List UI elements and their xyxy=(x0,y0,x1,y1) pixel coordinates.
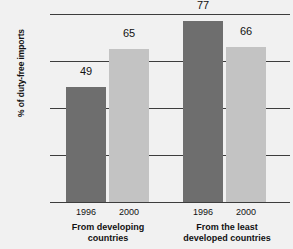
bar-developing-1996[interactable] xyxy=(66,87,106,202)
x-tick-label-developing-1996: 1996 xyxy=(66,208,106,217)
bar-least-developed-2000[interactable] xyxy=(226,47,266,202)
bar-value-developing-1996: 49 xyxy=(66,66,106,77)
bar-value-least-developed-2000: 66 xyxy=(226,26,266,37)
gridline-0-baseline xyxy=(50,202,290,203)
bar-value-least-developed-1996: 77 xyxy=(183,0,223,11)
gridline-80 xyxy=(50,14,290,15)
plot-area xyxy=(50,14,290,202)
x-tick-label-developing-2000: 2000 xyxy=(109,208,149,217)
group-label-developing: From developing countries xyxy=(56,222,160,245)
group-label-least-developed-line2: developed countries xyxy=(168,233,286,244)
group-label-least-developed-line1: From the least xyxy=(168,222,286,233)
x-tick-label-least-developed-2000: 2000 xyxy=(226,208,266,217)
group-label-developing-line2: countries xyxy=(56,233,160,244)
y-axis-title: % of duty-free imports xyxy=(16,0,26,148)
x-tick-label-least-developed-1996: 1996 xyxy=(183,208,223,217)
bar-chart: % of duty-free imports 0 20 40 60 80 xyxy=(0,0,293,249)
bar-value-developing-2000: 65 xyxy=(109,28,149,39)
bar-developing-2000[interactable] xyxy=(109,49,149,202)
group-label-developing-line1: From developing xyxy=(56,222,160,233)
group-label-least-developed: From the least developed countries xyxy=(168,222,286,245)
bar-least-developed-1996[interactable] xyxy=(183,21,223,202)
